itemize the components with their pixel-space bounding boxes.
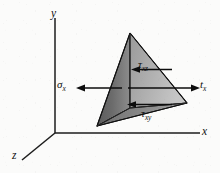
tau-xz-label: τxz bbox=[138, 59, 148, 70]
sigma-x-label: σx bbox=[57, 79, 66, 90]
axis-label-y: y bbox=[51, 8, 56, 20]
tau-xy-label: τxy bbox=[141, 108, 151, 119]
axis-label-z: z bbox=[12, 150, 16, 162]
t-x-arrowhead bbox=[191, 84, 200, 91]
stress-tetrahedron-figure: y x z σx tx τxz τxy bbox=[0, 0, 220, 173]
t-x-label: tx bbox=[200, 79, 206, 90]
t-x-label-sub: x bbox=[203, 84, 206, 93]
tau-xy-label-sub: xy bbox=[145, 113, 151, 122]
z-axis-line bbox=[22, 133, 55, 160]
sigma-x-arrowhead bbox=[76, 84, 85, 91]
axis-label-x: x bbox=[202, 126, 207, 138]
tau-xz-label-sub: xz bbox=[142, 64, 148, 73]
sigma-x-label-sub: x bbox=[62, 84, 65, 93]
figure-canvas bbox=[0, 0, 220, 173]
